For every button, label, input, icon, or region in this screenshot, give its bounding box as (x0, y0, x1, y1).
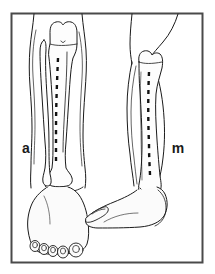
label-medial: m (172, 140, 184, 156)
leg-anatomy-illustration: a m (0, 0, 215, 274)
anatomical-figure: a m (0, 0, 215, 274)
label-anterior: a (22, 140, 30, 156)
